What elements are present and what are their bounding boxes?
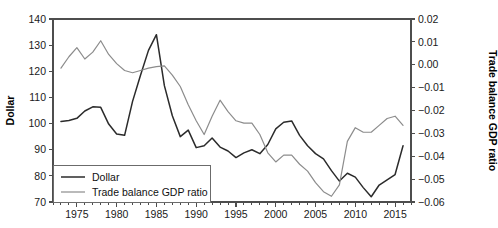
x-tick-label: 1980 bbox=[105, 208, 129, 220]
y-right-tick-label: −0.05 bbox=[418, 173, 445, 185]
legend-label: Dollar bbox=[92, 171, 120, 183]
y-right-tick-label: 0.01 bbox=[418, 36, 439, 48]
y-left-tick-label: 130 bbox=[28, 39, 46, 51]
x-tick-label: 1985 bbox=[145, 208, 169, 220]
y-left-tick-label: 100 bbox=[28, 117, 46, 129]
y-right-tick-label: −0.06 bbox=[418, 196, 445, 208]
y-left-tick-label: 90 bbox=[34, 143, 46, 155]
y-axis-right-tick-labels: −0.06−0.05−0.04−0.03−0.02−0.010.000.010.… bbox=[418, 13, 445, 208]
x-tick-label: 2005 bbox=[304, 208, 328, 220]
x-tick-label: 2015 bbox=[383, 208, 407, 220]
x-tick-label: 1975 bbox=[65, 208, 89, 220]
y-axis-left-title: Dollar bbox=[4, 96, 16, 126]
x-tick-label: 1995 bbox=[224, 208, 248, 220]
dual-axis-line-chart: 197519801985199019952000200520102015 708… bbox=[0, 0, 498, 228]
y-right-tick-label: −0.03 bbox=[418, 127, 445, 139]
y-left-tick-label: 80 bbox=[34, 170, 46, 182]
y-left-tick-label: 120 bbox=[28, 65, 46, 77]
y-axis-left-tick-labels: 708090100110120130140 bbox=[28, 13, 46, 208]
chart-container: 197519801985199019952000200520102015 708… bbox=[0, 0, 498, 228]
legend-label: Trade balance GDP ratio bbox=[92, 186, 208, 198]
y-axis-right-ticks bbox=[411, 19, 415, 202]
y-right-tick-label: −0.01 bbox=[418, 81, 445, 93]
y-right-tick-label: −0.04 bbox=[418, 150, 445, 162]
y-right-tick-label: −0.02 bbox=[418, 104, 445, 116]
y-left-tick-label: 140 bbox=[28, 13, 46, 25]
y-right-tick-label: 0.02 bbox=[418, 13, 439, 25]
chart-legend: DollarTrade balance GDP ratio bbox=[54, 166, 211, 203]
y-right-tick-label: 0.00 bbox=[418, 58, 439, 70]
y-left-tick-label: 110 bbox=[29, 91, 46, 103]
x-tick-label: 1990 bbox=[185, 208, 209, 220]
y-left-tick-label: 70 bbox=[34, 196, 46, 208]
y-axis-left-ticks bbox=[49, 19, 53, 202]
y-axis-right-title: Trade balance GDP ratio bbox=[487, 50, 498, 171]
x-tick-label: 2000 bbox=[264, 208, 288, 220]
x-tick-label: 2010 bbox=[344, 208, 368, 220]
x-axis-tick-labels: 197519801985199019952000200520102015 bbox=[65, 208, 407, 220]
